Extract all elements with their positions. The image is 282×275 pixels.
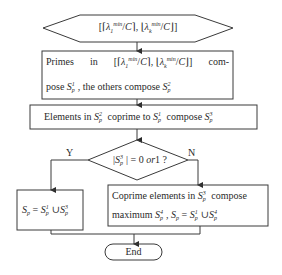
set-s1: S1p	[153, 110, 164, 125]
set-s3: S3p	[115, 153, 126, 168]
set-s3: S3p	[205, 110, 216, 125]
set-sp: Sp	[22, 203, 30, 218]
no-box-line2: maximum S4p, Sp = S1p∪S4p	[112, 208, 220, 223]
set-s1: S1p	[67, 80, 78, 95]
no-branch-line	[188, 160, 198, 185]
step1-line2: pose S1p, the others compose S2p	[46, 80, 174, 95]
ceil-open: [⌈	[99, 21, 106, 32]
step2-label: Elements in S2p coprime to S1p compose S…	[44, 110, 216, 125]
start-label: [⌈λ1min/C⌉, ⌊λkmin/C⌋]	[88, 20, 188, 33]
set-s3: S3p	[198, 189, 209, 204]
set-s3: S3p	[60, 203, 71, 218]
end-label: End	[105, 245, 162, 258]
set-sp: Sp	[171, 208, 179, 223]
yes-branch-line	[51, 160, 88, 190]
set-s1: S1p	[41, 203, 52, 218]
set-s4: S4p	[209, 208, 220, 223]
flowchart-shapes	[0, 0, 282, 275]
no-label: N	[188, 146, 195, 159]
yes-box-label: Sp = S1p∪S3p	[22, 203, 71, 218]
decision-label: |S3p| = 0 or1 ?	[113, 153, 167, 168]
interval-expr: [⌈λ1min/C⌉, ⌊λkmin/C⌋]	[114, 55, 193, 68]
no-box-line1: Coprime elements in S3p compose	[112, 189, 247, 204]
yes-label: Y	[66, 146, 73, 159]
step1-line1: Primes in [⌈λ1min/C⌉, ⌊λkmin/C⌋] com-	[46, 55, 229, 68]
set-s1: S1p	[190, 208, 201, 223]
set-s2: S2p	[94, 110, 105, 125]
set-s2: S2p	[163, 80, 174, 95]
set-s4: S4p	[155, 208, 166, 223]
